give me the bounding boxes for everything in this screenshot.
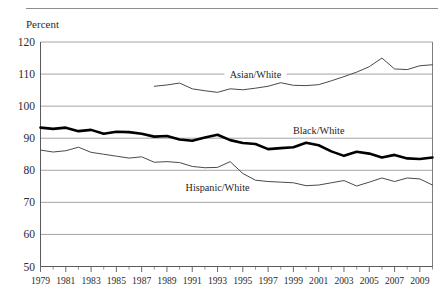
series-line-hispanic-white bbox=[41, 147, 433, 186]
y-tick-label: 120 bbox=[18, 36, 36, 48]
chart-container: Percent 1201101009080706050 197919811983… bbox=[0, 0, 446, 299]
y-tick-label: 110 bbox=[18, 68, 35, 80]
x-ticks-group bbox=[41, 267, 433, 273]
x-tick-label: 1987 bbox=[132, 275, 151, 286]
x-tick-label: 2005 bbox=[360, 275, 379, 286]
series-line-asian-white bbox=[154, 58, 432, 92]
series-label-asian-white: Asian/White bbox=[230, 69, 282, 80]
x-tick-label: 1983 bbox=[81, 275, 100, 286]
x-tick-label: 1985 bbox=[107, 275, 126, 286]
line-chart: Percent 1201101009080706050 197919811983… bbox=[0, 0, 446, 299]
x-tick-label: 2007 bbox=[385, 275, 404, 286]
x-tick-label: 1981 bbox=[56, 275, 75, 286]
series-label-hispanic-white: Hispanic/White bbox=[186, 182, 250, 193]
x-tick-label: 2001 bbox=[309, 275, 328, 286]
y-tick-label: 90 bbox=[24, 132, 36, 144]
y-tick-label: 100 bbox=[18, 100, 36, 112]
x-tick-label: 1989 bbox=[157, 275, 176, 286]
y-axis-title: Percent bbox=[26, 18, 59, 30]
x-tick-label: 1999 bbox=[284, 275, 303, 286]
y-tick-labels-group: 1201101009080706050 bbox=[18, 36, 36, 273]
y-tick-label: 70 bbox=[24, 196, 36, 208]
x-tick-label: 1997 bbox=[259, 275, 278, 286]
y-tick-label: 50 bbox=[24, 261, 36, 273]
x-tick-label: 1991 bbox=[183, 275, 202, 286]
x-tick-label: 1995 bbox=[233, 275, 252, 286]
series-label-black-white: Black/White bbox=[293, 125, 345, 136]
x-tick-label: 1979 bbox=[31, 275, 50, 286]
x-tick-labels-group: 1979198119831985198719891991199319951997… bbox=[31, 275, 430, 286]
x-tick-label: 2009 bbox=[410, 275, 429, 286]
y-tick-label: 80 bbox=[24, 164, 36, 176]
y-tick-label: 60 bbox=[24, 228, 36, 240]
x-tick-label: 2003 bbox=[334, 275, 353, 286]
series-annotations-group: Asian/WhiteBlack/WhiteHispanic/White bbox=[179, 69, 350, 195]
series-line-black-white bbox=[41, 128, 433, 159]
x-tick-label: 1993 bbox=[208, 275, 227, 286]
